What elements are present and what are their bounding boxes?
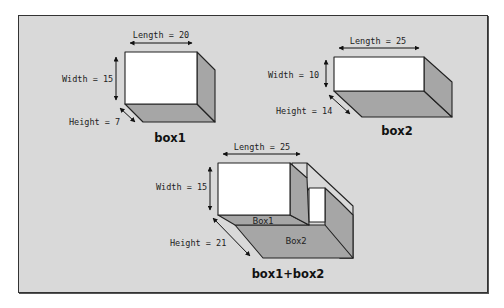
box1-front-face — [125, 52, 197, 104]
combined-box1-label: Box1 — [252, 216, 273, 226]
box1-width-label: Width = 15 — [62, 74, 113, 84]
box2-height-label: Height = 14 — [276, 106, 332, 116]
box2-figure: Length = 25 Width = 10 Height = 14 box2 — [268, 36, 452, 138]
combined-length-label: Length = 25 — [234, 142, 290, 152]
combined-width-label: Width = 15 — [156, 182, 207, 192]
box2-caption: box2 — [381, 124, 413, 138]
box1-caption: box1 — [154, 131, 186, 145]
box2-length-label: Length = 25 — [350, 36, 406, 46]
box-addition-diagram: Length = 20 Width = 15 Height = 7 box1 L… — [0, 0, 504, 308]
box1-length-label: Length = 20 — [133, 30, 189, 40]
combined-caption: box1+box2 — [252, 267, 325, 281]
combined-figure: Box1 Box2 Length = 25 Width = 15 Height … — [156, 142, 353, 281]
box1-figure: Length = 20 Width = 15 Height = 7 box1 — [62, 30, 215, 145]
box1-height-label: Height = 7 — [69, 117, 120, 127]
combined-notch — [309, 188, 325, 222]
combined-box2-label: Box2 — [285, 236, 306, 246]
box2-front-face — [334, 57, 424, 91]
combined-height-label: Height = 21 — [170, 238, 226, 248]
combined-front-face — [218, 163, 290, 215]
box2-width-label: Width = 10 — [268, 70, 319, 80]
